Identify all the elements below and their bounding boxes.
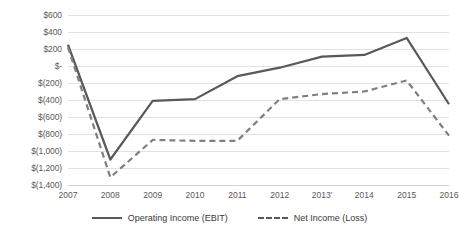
- legend-item-label: Operating Income (EBIT): [128, 213, 228, 223]
- legend-item[interactable]: Operating Income (EBIT): [92, 213, 228, 223]
- chart-legend: Operating Income (EBIT)Net Income (Loss): [0, 213, 459, 223]
- legend-item[interactable]: Net Income (Loss): [258, 213, 368, 223]
- y-axis-tick-label: $200: [43, 44, 62, 54]
- x-axis-tick-label: 2016: [440, 190, 459, 200]
- y-axis-tick-label: $(400): [38, 95, 62, 105]
- gridline: [68, 185, 449, 186]
- legend-swatch-icon: [92, 217, 122, 219]
- x-axis-tick-label: 2014: [355, 190, 374, 200]
- x-axis-tick-label: 2011: [228, 190, 246, 200]
- y-axis-tick-label: $(800): [38, 129, 62, 139]
- x-axis-tick-label: 2010: [186, 190, 205, 200]
- y-axis-tick-label: $(1,000): [31, 146, 62, 156]
- y-axis-tick-label: $(600): [38, 112, 62, 122]
- y-axis: $600$400$200$-$(200)$(400)$(600)$(800)$(…: [0, 15, 62, 185]
- y-axis-tick-label: $(1,400): [31, 180, 62, 190]
- y-axis-tick-label: $-: [55, 61, 62, 71]
- y-axis-tick-label: $(200): [38, 78, 62, 88]
- x-axis: 2007200820092010201120122013'20142015201…: [68, 190, 449, 204]
- x-axis-tick-label: 2015: [397, 190, 416, 200]
- series-layer: [68, 15, 449, 185]
- x-axis-tick-label: 2008: [101, 190, 120, 200]
- x-axis-tick-label: 2007: [59, 190, 78, 200]
- x-axis-tick-label: 2013': [312, 190, 333, 200]
- y-axis-tick-label: $(1,200): [31, 163, 62, 173]
- x-axis-tick-label: 2009: [143, 190, 162, 200]
- plot-area: [68, 15, 449, 185]
- legend-swatch-icon: [258, 217, 288, 219]
- y-axis-tick-label: $600: [43, 10, 62, 20]
- x-axis-tick-label: 2012: [270, 190, 289, 200]
- series-line: [68, 47, 449, 177]
- y-axis-tick-label: $400: [43, 27, 62, 37]
- line-chart: $600$400$200$-$(200)$(400)$(600)$(800)$(…: [0, 0, 459, 238]
- series-line: [68, 38, 449, 160]
- legend-item-label: Net Income (Loss): [294, 213, 368, 223]
